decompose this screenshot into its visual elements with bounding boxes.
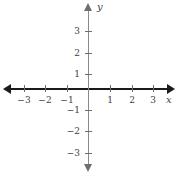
- x-axis-left-arrowhead-icon: [3, 84, 11, 94]
- x-axis-tick: [153, 85, 154, 92]
- x-axis-tick-label: 2: [122, 95, 142, 105]
- x-axis-right-arrowhead-icon: [167, 84, 175, 94]
- x-axis-tick: [132, 85, 133, 92]
- y-axis-tick: [85, 110, 92, 111]
- y-axis-tick: [85, 31, 92, 32]
- y-axis-label: y: [97, 1, 103, 12]
- y-axis-tick-label: −2: [60, 126, 80, 136]
- x-axis-tick-label: 1: [100, 95, 120, 105]
- y-axis-line: [88, 10, 89, 165]
- y-axis-tick-label: −1: [60, 105, 80, 115]
- x-axis-tick: [45, 85, 46, 92]
- x-axis-tick-label: −1: [57, 95, 77, 105]
- x-axis-tick: [67, 85, 68, 92]
- y-axis-down-arrowhead-icon: [84, 164, 92, 172]
- x-axis-tick-label: 3: [143, 95, 163, 105]
- y-axis-tick: [85, 131, 92, 132]
- y-axis-tick: [85, 74, 92, 75]
- y-axis-tick-label: −3: [60, 148, 80, 158]
- y-axis-tick-label: 2: [60, 48, 80, 58]
- x-axis-label: x: [166, 94, 172, 105]
- x-axis-tick: [24, 85, 25, 92]
- y-axis-tick-label: 1: [60, 69, 80, 79]
- x-axis-line: [9, 88, 170, 90]
- y-axis-up-arrowhead-icon: [84, 3, 92, 11]
- y-axis-tick: [85, 53, 92, 54]
- coordinate-plane-figure: −3−2−1123 321−1−2−3 x y: [0, 0, 178, 178]
- x-axis-tick-label: −3: [14, 95, 34, 105]
- x-axis-tick-label: −2: [35, 95, 55, 105]
- y-axis-tick-label: 3: [60, 26, 80, 36]
- y-axis-tick: [85, 153, 92, 154]
- x-axis-tick: [110, 85, 111, 92]
